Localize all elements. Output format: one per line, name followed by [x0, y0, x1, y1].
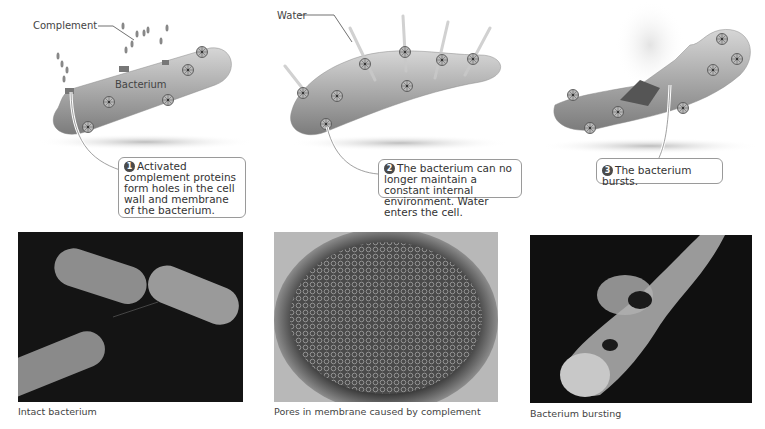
caption-membrane-pores: Pores in membrane caused by complement — [274, 406, 481, 417]
step-1-callout: 1Activated complement proteins form hole… — [118, 157, 246, 218]
bacterium-intact-illustration — [35, 23, 255, 171]
photo-intact-bacterium — [18, 232, 243, 402]
caption-intact-bacterium: Intact bacterium — [18, 406, 97, 417]
photo-bacterium-bursting — [530, 235, 752, 403]
bacterium-label: Bacterium — [115, 79, 167, 90]
step-1-text: Activated complement proteins form holes… — [124, 160, 236, 216]
caption-bacterium-bursting: Bacterium bursting — [530, 408, 621, 419]
step-2-callout: 2The bacterium can no longer maintain a … — [378, 159, 522, 198]
complement-label: Complement — [33, 20, 97, 31]
step-3-text: The bacterium bursts. — [602, 164, 691, 187]
bacterium-swelling-illustration — [285, 15, 510, 174]
bacterium-bursting-illustration — [540, 0, 760, 160]
water-label: Water — [277, 10, 307, 21]
step-3-callout: 3The bacterium bursts. — [596, 158, 723, 184]
photo-membrane-pores — [274, 232, 498, 402]
